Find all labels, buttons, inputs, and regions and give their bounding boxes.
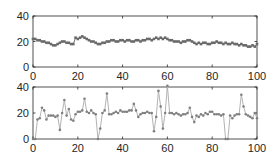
data-point	[197, 116, 200, 119]
data-point	[209, 43, 212, 46]
data-point	[61, 40, 64, 43]
data-point	[88, 112, 91, 115]
data-point	[150, 39, 153, 42]
x-tick-label: 60	[161, 70, 173, 82]
data-point	[184, 40, 187, 43]
data-point	[50, 43, 53, 46]
data-point	[94, 41, 97, 44]
data-point	[146, 110, 149, 113]
data-point	[240, 94, 243, 97]
y-tick-label: 0	[23, 61, 29, 73]
data-point	[247, 114, 250, 117]
data-point	[74, 36, 77, 39]
data-point	[200, 43, 203, 46]
data-point	[238, 44, 241, 47]
data-point	[126, 110, 129, 113]
y-tick-label: 20	[17, 107, 29, 119]
data-point	[54, 116, 57, 119]
data-point	[144, 112, 147, 115]
data-point	[150, 112, 153, 115]
data-point	[256, 117, 259, 120]
x-tick-label: 100	[248, 142, 266, 154]
data-point	[135, 39, 138, 42]
data-point	[99, 127, 102, 130]
data-point	[110, 113, 113, 116]
y-tick-label: 40	[17, 10, 29, 22]
data-point	[65, 114, 68, 117]
data-point	[220, 41, 223, 44]
data-point	[126, 39, 129, 42]
data-point	[206, 43, 209, 46]
data-point	[90, 40, 93, 43]
data-point	[110, 39, 113, 42]
data-point	[180, 114, 183, 117]
data-point	[197, 41, 200, 44]
data-point	[191, 116, 194, 119]
data-point	[233, 114, 236, 117]
data-point	[72, 43, 75, 46]
data-point	[171, 39, 174, 42]
data-point	[50, 114, 53, 117]
data-point	[34, 138, 37, 141]
data-point	[121, 110, 124, 113]
data-point	[85, 110, 88, 113]
data-point	[162, 38, 165, 41]
data-point	[236, 43, 239, 46]
data-point	[52, 114, 55, 117]
data-point	[77, 38, 80, 41]
data-point	[227, 138, 230, 141]
data-point	[34, 38, 37, 41]
data-point	[112, 39, 115, 42]
data-point	[77, 110, 80, 113]
data-point	[47, 114, 50, 117]
data-point	[81, 35, 84, 38]
data-point	[240, 43, 243, 46]
data-point	[106, 92, 109, 95]
data-point	[191, 40, 194, 43]
x-tick-label: 20	[72, 70, 84, 82]
data-point	[256, 43, 259, 46]
data-point	[36, 39, 39, 42]
x-tick-label: 20	[72, 142, 84, 154]
data-point	[68, 108, 71, 111]
data-point	[115, 40, 118, 43]
data-point	[124, 40, 127, 43]
data-point	[189, 39, 192, 42]
data-point	[128, 109, 131, 112]
data-point	[155, 116, 158, 119]
data-point	[247, 45, 250, 48]
data-point	[182, 40, 185, 43]
data-point	[204, 112, 207, 115]
data-point	[79, 36, 82, 39]
data-point	[222, 43, 225, 46]
data-point	[222, 113, 225, 116]
data-point	[249, 116, 252, 119]
data-point	[85, 38, 88, 41]
data-point	[218, 41, 221, 44]
data-point	[206, 113, 209, 116]
data-point	[112, 112, 115, 115]
data-point	[213, 113, 216, 116]
data-point	[186, 39, 189, 42]
data-point	[36, 118, 39, 121]
data-point	[186, 112, 189, 115]
data-point	[157, 38, 160, 41]
data-point	[229, 43, 232, 46]
data-point	[88, 39, 91, 42]
data-point	[139, 40, 142, 43]
data-point	[189, 107, 192, 110]
data-point	[224, 41, 227, 44]
data-point	[177, 40, 180, 43]
data-point	[83, 97, 86, 100]
data-point	[148, 112, 151, 115]
data-point	[117, 112, 120, 115]
data-point	[200, 113, 203, 116]
data-point	[61, 112, 64, 115]
data-point	[133, 40, 136, 43]
data-point	[164, 36, 167, 39]
data-point	[213, 41, 216, 44]
data-point	[168, 112, 171, 115]
data-point	[108, 113, 111, 116]
data-point	[38, 39, 41, 42]
data-point	[224, 138, 227, 141]
